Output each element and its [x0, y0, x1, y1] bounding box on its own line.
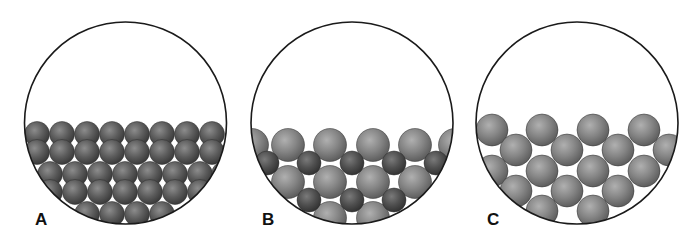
sphere: [653, 134, 685, 166]
sphere: [297, 151, 321, 175]
sphere: [602, 175, 634, 207]
panel-label-b: B: [262, 211, 274, 228]
sphere: [602, 134, 634, 166]
sphere: [628, 155, 660, 187]
sphere: [12, 180, 37, 205]
sphere: [526, 155, 558, 187]
sphere: [577, 114, 609, 146]
sphere: [340, 188, 364, 212]
sphere: [551, 134, 583, 166]
sphere: [340, 151, 364, 175]
sphere: [297, 188, 321, 212]
panel-c: [476, 22, 685, 227]
sphere: [125, 140, 150, 165]
panel-label-a: A: [35, 211, 47, 228]
sphere: [150, 140, 175, 165]
sphere: [628, 114, 660, 146]
sphere: [163, 180, 188, 205]
sphere: [382, 188, 406, 212]
sphere: [500, 175, 532, 207]
sphere-packing-figure: [0, 0, 692, 239]
sphere: [75, 202, 100, 227]
sphere: [212, 180, 237, 205]
sphere: [200, 140, 225, 165]
sphere: [382, 151, 406, 175]
sphere: [88, 180, 113, 205]
sphere: [526, 114, 558, 146]
sphere: [551, 175, 583, 207]
sphere: [63, 180, 88, 205]
panel-label-c: C: [487, 211, 499, 228]
sphere: [526, 195, 558, 227]
sphere: [38, 180, 63, 205]
sphere: [212, 162, 237, 187]
panel-b: [236, 22, 472, 235]
sphere: [175, 140, 200, 165]
sphere: [75, 140, 100, 165]
sphere: [100, 140, 125, 165]
sphere: [577, 155, 609, 187]
panel-a: [12, 22, 237, 227]
sphere: [138, 180, 163, 205]
sphere-group-c: [476, 114, 685, 227]
sphere: [113, 180, 138, 205]
sphere: [12, 162, 37, 187]
sphere: [50, 140, 75, 165]
